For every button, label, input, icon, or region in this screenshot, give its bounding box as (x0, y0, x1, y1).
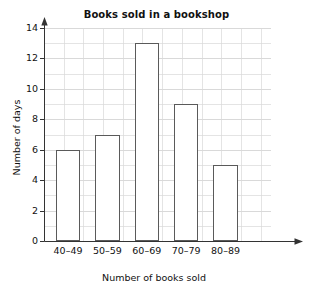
bar-60-69 (135, 43, 159, 241)
plot-area (44, 28, 285, 241)
y-tick-label: 12 (18, 53, 38, 63)
chart-title: Books sold in a bookshop (0, 9, 313, 20)
x-axis-arrow-icon (295, 238, 304, 244)
bar-40-49 (56, 150, 80, 241)
x-tick-label: 80–89 (202, 246, 250, 256)
y-tick-label: 4 (18, 175, 38, 185)
bar-50-59 (95, 135, 119, 242)
x-axis-tick-labels: 40–4950–5960–6970–7980–89 (44, 246, 285, 262)
y-tick-label: 8 (18, 114, 38, 124)
bar-70-79 (174, 104, 198, 241)
y-tick-label: 2 (18, 206, 38, 216)
y-tick-label: 10 (18, 84, 38, 94)
y-tick-label: 6 (18, 145, 38, 155)
y-axis-tick-labels: 02468101214 (15, 28, 38, 241)
bar-chart: Books sold in a bookshop Number of days … (0, 0, 313, 299)
y-tick-label: 0 (18, 236, 38, 246)
y-tick-label: 14 (18, 23, 38, 33)
bar-80-89 (213, 165, 237, 241)
x-axis-title: Number of books sold (30, 272, 278, 283)
bars-layer (44, 28, 285, 241)
